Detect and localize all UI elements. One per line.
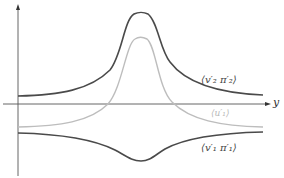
horizontal-axis xyxy=(3,102,271,106)
vertical-axis xyxy=(16,4,20,176)
curve-middle-label: ⟨u′₁⟩ xyxy=(211,109,229,118)
arrow-up-icon xyxy=(16,4,20,10)
curve-upper-label: ⟨v′₂ π′₂⟩ xyxy=(201,75,237,85)
arrow-right-icon xyxy=(265,102,271,106)
axis-x-label: y xyxy=(273,97,279,108)
diagram-canvas xyxy=(0,0,284,178)
curve-lower-label: ⟨v′₁ π′₁⟩ xyxy=(201,143,237,153)
